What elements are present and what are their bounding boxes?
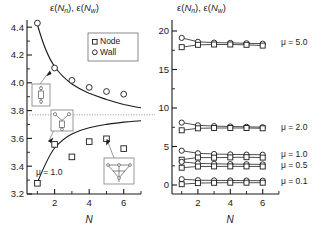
mu-label-01: μ = 0.1: [281, 176, 308, 186]
legend[interactable]: Node Wall: [88, 33, 138, 61]
left-x-axis-title: N: [85, 214, 93, 225]
inset-wall-small: [32, 71, 52, 106]
right-x-ticks: [182, 189, 279, 194]
svg-text:4: 4: [87, 197, 92, 208]
svg-text:4: 4: [228, 197, 233, 208]
inset-node-three: [48, 110, 73, 143]
svg-text:0: 0: [164, 179, 169, 190]
mu-label-2: μ = 2.0: [281, 122, 308, 132]
legend-label-wall: Wall: [100, 47, 116, 57]
right-x-tick-labels: 2 4 6: [195, 197, 265, 208]
svg-text:2: 2: [195, 197, 200, 208]
svg-text:3.4: 3.4: [11, 161, 24, 172]
mu-annotation-left: μ = 1.0: [36, 167, 63, 177]
svg-text:3.2: 3.2: [11, 188, 24, 199]
series-group-mu-05: μ = 0.5: [179, 159, 308, 170]
figure-root: ε(Nn), ε(Nw) 3.2: [0, 0, 315, 230]
svg-text:20: 20: [158, 25, 169, 36]
svg-text:10: 10: [158, 102, 169, 113]
mu-label-5: μ = 5.0: [281, 37, 308, 47]
right-panel-svg: ε(Nn), ε(Nw) 0 5 10 15 20: [155, 0, 315, 230]
right-y-ticks: [172, 31, 177, 185]
left-x-tick-labels: 2 4 6: [52, 197, 126, 208]
right-y-tick-labels: 0 5 10 15 20: [158, 25, 169, 190]
svg-text:4.0: 4.0: [11, 77, 24, 88]
legend-marker-node: [93, 40, 98, 45]
legend-marker-wall: [92, 50, 97, 55]
chart-panel-left: ε(Nn), ε(Nw) 3.2: [0, 0, 155, 230]
left-y-tick-labels: 3.2 3.4 3.6 3.8 4.0 4.2 4.4: [11, 22, 24, 200]
right-x-axis-title: N: [226, 214, 234, 225]
series-group-mu-01: μ = 0.1: [179, 176, 308, 187]
svg-text:2: 2: [52, 197, 57, 208]
svg-text:3.6: 3.6: [11, 133, 24, 144]
left-panel-title: ε(Nn), ε(Nw): [50, 2, 99, 14]
series-group-mu-2: μ = 2.0: [179, 120, 308, 133]
left-y-ticks: [27, 27, 32, 194]
svg-text:4.4: 4.4: [11, 22, 24, 33]
right-panel-title: ε(Nn), ε(Nw): [177, 2, 226, 14]
left-x-ticks: [37, 189, 141, 194]
svg-text:5: 5: [164, 141, 169, 152]
svg-text:6: 6: [260, 197, 265, 208]
svg-text:3.8: 3.8: [11, 105, 24, 116]
mu-label-1: μ = 1.0: [281, 149, 308, 159]
left-panel-svg: ε(Nn), ε(Nw) 3.2: [0, 0, 155, 230]
svg-text:4.2: 4.2: [11, 49, 24, 60]
chart-panel-right: ε(Nn), ε(Nw) 0 5 10 15 20: [155, 0, 315, 230]
svg-text:15: 15: [158, 64, 169, 75]
series-group-mu-5: μ = 5.0: [179, 35, 308, 49]
mu-label-05: μ = 0.5: [281, 160, 308, 170]
legend-label-node: Node: [100, 36, 121, 46]
svg-text:6: 6: [121, 197, 126, 208]
inset-node-cluster: [104, 139, 134, 184]
